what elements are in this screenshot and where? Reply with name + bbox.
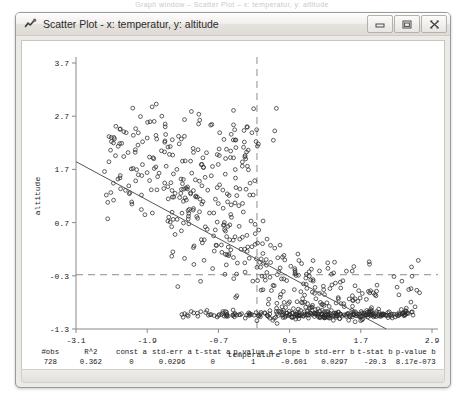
scatter-point — [278, 266, 282, 270]
scatter-point — [304, 276, 308, 280]
scatter-point — [352, 265, 356, 269]
x-tick-label-0: -3.1 — [66, 336, 85, 345]
stats-header-4: t-stat a — [192, 348, 233, 358]
scatter-point — [203, 175, 207, 179]
scatter-point — [190, 171, 194, 175]
scatter-point — [351, 304, 355, 308]
scatter-point — [328, 287, 332, 291]
scatter-point — [273, 246, 277, 250]
scatter-point — [183, 134, 187, 138]
y-tick-label-1: -0.3 — [50, 272, 69, 281]
scatter-point — [216, 163, 220, 167]
scatter-point — [232, 277, 236, 281]
scatter-point — [229, 132, 233, 136]
x-tick-label-1: -1.9 — [138, 336, 157, 345]
scatter-point — [242, 129, 246, 133]
scatter-point — [283, 258, 287, 262]
scatter-point — [274, 106, 278, 110]
scatter-point — [269, 243, 273, 247]
scatter-point — [235, 194, 239, 198]
close-icon[interactable] — [421, 15, 447, 33]
scatter-point — [178, 196, 182, 200]
scatter-point — [170, 189, 174, 193]
scatter-point — [167, 215, 171, 219]
scatter-point — [173, 233, 177, 237]
scatter-point — [331, 318, 335, 322]
scatter-point — [409, 300, 413, 304]
plot-icon — [24, 18, 37, 30]
plot-client-area: -1.3-0.30.71.72.73.7altitude-3.1-1.9-0.7… — [21, 40, 445, 371]
scatter-point — [326, 266, 330, 270]
scatter-point — [399, 308, 403, 312]
scatter-point — [244, 187, 248, 191]
x-tick-label-5: 2.9 — [425, 336, 440, 345]
scatter-point — [163, 181, 167, 185]
scatter-point — [263, 278, 267, 282]
scatter-point — [205, 151, 209, 155]
scatter-point — [171, 250, 175, 254]
scatter-point — [243, 261, 247, 265]
scatter-point — [264, 258, 268, 262]
scatter-point — [242, 140, 246, 144]
scatter-point — [291, 307, 295, 311]
scatter-point — [213, 228, 217, 232]
stats-table: #obsR^2const astd-err at-stat ap-value a… — [30, 348, 436, 366]
scatter-point — [198, 118, 202, 122]
scatter-point — [224, 263, 228, 267]
scatter-point — [139, 115, 143, 119]
scatter-point — [229, 149, 233, 153]
scatter-point — [222, 138, 226, 142]
maximize-icon[interactable] — [394, 15, 420, 33]
scatter-point — [141, 163, 145, 167]
scatter-plot-svg: -1.3-0.30.71.72.73.7altitude-3.1-1.9-0.7… — [22, 41, 444, 371]
scatter-point — [126, 151, 130, 155]
scatter-point — [180, 229, 184, 233]
scatter-point — [253, 222, 257, 226]
scatter-point — [149, 188, 153, 192]
scatter-point — [134, 127, 138, 131]
scatter-point — [170, 138, 174, 142]
scatter-point — [237, 224, 241, 228]
scatter-point — [232, 123, 236, 127]
scatter-point — [211, 165, 215, 169]
scatter-point — [233, 128, 237, 132]
scatter-point — [155, 188, 159, 192]
scatter-point — [162, 187, 166, 191]
window-statusbar — [21, 369, 445, 383]
scatter-point — [364, 298, 368, 302]
scatter-point — [240, 164, 244, 168]
scatter-plot-window: Scatter Plot - x: temperatur, y: altitud… — [15, 12, 451, 388]
scatter-point — [416, 259, 420, 263]
scatter-point — [171, 217, 175, 221]
scatter-point — [251, 279, 255, 283]
scatter-point — [181, 159, 185, 163]
scatter-points-group — [103, 102, 422, 325]
scatter-point — [265, 237, 269, 241]
scatter-point — [168, 145, 172, 149]
scatter-point — [154, 102, 158, 106]
scatter-point — [191, 189, 195, 193]
scatter-point — [175, 168, 179, 172]
scatter-point — [106, 200, 110, 204]
minimize-icon[interactable] — [367, 15, 393, 33]
scatter-point — [103, 170, 107, 174]
scatter-point — [344, 269, 348, 273]
scatter-point — [135, 168, 139, 172]
scatter-point — [275, 301, 279, 305]
window-titlebar[interactable]: Scatter Plot - x: temperatur, y: altitud… — [16, 13, 450, 36]
scatter-plot-canvas[interactable]: -1.3-0.30.71.72.73.7altitude-3.1-1.9-0.7… — [22, 41, 444, 371]
scatter-point — [218, 131, 222, 135]
scatter-point — [160, 114, 164, 118]
scatter-point — [266, 302, 270, 306]
stats-header-0: #obs — [30, 348, 71, 358]
scatter-point — [202, 258, 206, 262]
stats-value-7: 0.0297 — [314, 358, 355, 366]
scatter-point — [275, 322, 279, 326]
scatter-point — [241, 210, 245, 214]
scatter-point — [131, 133, 135, 137]
scatter-point — [256, 279, 260, 283]
scatter-point — [136, 143, 140, 147]
scatter-point — [245, 233, 249, 237]
stats-header-9: p-value b — [395, 348, 436, 358]
scatter-point — [127, 184, 131, 188]
